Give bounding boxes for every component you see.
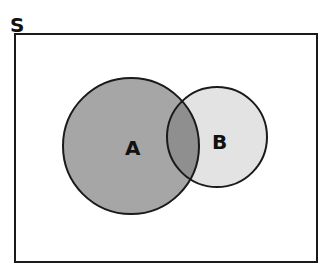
- universe-label: S: [10, 13, 24, 37]
- venn-diagram: S A B: [0, 0, 330, 273]
- set-b-label: B: [212, 130, 227, 154]
- set-a-label: A: [125, 136, 141, 160]
